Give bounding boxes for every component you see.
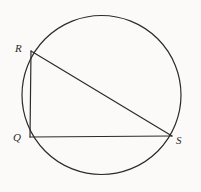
- vertex-label-S: S: [176, 135, 182, 146]
- figure-canvas: [0, 0, 201, 192]
- segment-RS: [31, 51, 172, 136]
- circumscribed-circle: [22, 16, 181, 175]
- geometry-figure: R Q S: [0, 0, 201, 192]
- vertex-label-Q: Q: [13, 132, 21, 143]
- segment-QS: [30, 136, 172, 137]
- vertex-label-R: R: [15, 43, 22, 54]
- segment-RQ: [30, 51, 31, 137]
